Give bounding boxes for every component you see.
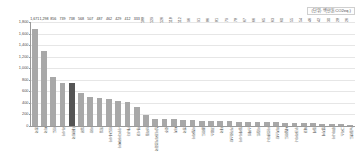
x-axis-label: 터키 xyxy=(172,127,176,133)
bar-value-label: 26 xyxy=(347,19,351,23)
x-label-slot: 네덜란드 xyxy=(281,126,290,160)
bars-container: 1,6711,298856739738568507487462429412333… xyxy=(30,22,355,126)
x-axis-label: 파키스탄 xyxy=(274,127,278,139)
bar-slot: 79 xyxy=(225,22,234,126)
x-axis-label: 이란 xyxy=(89,127,93,133)
bar-value-label: 67 xyxy=(245,19,249,23)
bar-value-label: 568 xyxy=(78,18,84,22)
y-tick-label: 800 xyxy=(22,78,31,82)
x-label-slot: 루마니아 xyxy=(327,126,336,160)
bar-slot: 81 xyxy=(216,22,225,126)
bar-value-label: 1,671 xyxy=(30,18,39,22)
x-label-slot: 파키스탄 xyxy=(271,126,280,160)
x-axis-label: 인도네시아 xyxy=(107,127,111,142)
x-axis-label: 일본 xyxy=(79,127,83,133)
x-label-slot: 인도네시아 xyxy=(104,126,113,160)
x-label-slot: 태국 xyxy=(216,126,225,160)
bar[interactable] xyxy=(143,115,149,126)
x-label-slot: 아르헨티나 xyxy=(262,126,271,160)
bar-slot: 86 xyxy=(206,22,215,126)
bar[interactable] xyxy=(50,77,56,126)
x-axis-label: 루마니아 xyxy=(330,127,334,139)
bar-value-label: 81 xyxy=(217,19,221,23)
x-label-slot: 독일 xyxy=(95,126,104,160)
bar[interactable] xyxy=(171,119,177,126)
x-label-slot: 벨기에 xyxy=(318,126,327,160)
bar-value-label: 54 xyxy=(300,19,304,23)
bar-value-label: 412 xyxy=(124,18,130,22)
bar-value-label: 30 xyxy=(328,19,332,23)
bar-value-label: 188 xyxy=(142,18,146,24)
bar-value-label: 126 xyxy=(161,18,165,24)
y-tick-label: 1,200 xyxy=(19,55,31,59)
bar[interactable] xyxy=(125,102,131,126)
bar-value-label: 462 xyxy=(106,18,112,22)
x-axis-label: 이탈리아 xyxy=(191,127,195,139)
y-tick-label: 1,000 xyxy=(19,66,31,70)
bar[interactable] xyxy=(115,101,121,126)
x-axis-label: 브라질 xyxy=(144,127,148,136)
bar-value-label: 739 xyxy=(59,18,65,22)
bar-slot: 568 xyxy=(76,22,85,126)
bar-value-label: 333 xyxy=(134,18,140,22)
x-label-slot: 러시아 xyxy=(58,126,67,160)
y-tick-label: 1,800 xyxy=(19,20,31,24)
bar-slot: 333 xyxy=(132,22,141,126)
bar[interactable] xyxy=(87,97,93,126)
bar-slot: 487 xyxy=(95,22,104,126)
bar[interactable] xyxy=(60,83,66,126)
x-axis-label: 체코 xyxy=(302,127,306,133)
x-label-slot: 칠레 xyxy=(308,126,317,160)
x-axis-label: 스페인 xyxy=(246,127,250,136)
x-axis-label: 이집트 xyxy=(256,127,260,136)
bar-value-label: 55 xyxy=(291,19,295,23)
x-label-slot: 터키 xyxy=(169,126,178,160)
bar-slot: 60 xyxy=(281,22,290,126)
bar[interactable] xyxy=(32,29,38,126)
bar[interactable] xyxy=(69,83,75,126)
bar-value-label: 112 xyxy=(180,18,184,24)
bar[interactable] xyxy=(97,98,103,126)
x-axis-label: 말레이시아 xyxy=(237,127,241,142)
x-axis-label: 중국 xyxy=(33,127,37,133)
bar-slot: 126 xyxy=(160,22,169,126)
bar-slot: 42 xyxy=(318,22,327,126)
x-axis-label: 폴란드 xyxy=(200,127,204,136)
x-axis-label: 프랑스 xyxy=(209,127,213,136)
x-axis-label: 태국 xyxy=(218,127,222,133)
bar-slot: 738 xyxy=(67,22,76,126)
bar-slot: 129 xyxy=(151,22,160,126)
x-axis-label: 호주 xyxy=(163,127,167,133)
bar-slot: 46 xyxy=(308,22,317,126)
x-label-slot: 사우디아라비아 xyxy=(114,126,123,160)
y-tick-label: 200 xyxy=(22,112,31,116)
bar[interactable] xyxy=(106,99,112,126)
bar-chart: (단위: 백만톤CO2eq.) 1,6711,29885673973856850… xyxy=(0,0,361,160)
bar[interactable] xyxy=(134,107,140,126)
x-label-slot: 브라질 xyxy=(141,126,150,160)
bar-value-label: 42 xyxy=(319,19,323,23)
bar-slot: 91 xyxy=(197,22,206,126)
bar-slot: 739 xyxy=(58,22,67,126)
bar-value-label: 129 xyxy=(152,18,156,24)
x-axis-label: 대한민국 xyxy=(70,127,74,139)
bar[interactable] xyxy=(41,51,47,126)
bar[interactable] xyxy=(152,119,158,126)
x-axis-label: 우크라이나 xyxy=(293,127,297,142)
bar-value-label: 429 xyxy=(115,18,121,22)
bar-slot: 30 xyxy=(327,22,336,126)
x-axis-label: 사우디아라비아 xyxy=(116,127,120,148)
bar[interactable] xyxy=(162,119,168,126)
bar-slot: 65 xyxy=(262,22,271,126)
bar-slot: 55 xyxy=(290,22,299,126)
bar[interactable] xyxy=(78,93,84,126)
x-label-slot: 인도 xyxy=(49,126,58,160)
x-axis-label: 러시아 xyxy=(61,127,65,136)
x-label-slot: 프랑스 xyxy=(206,126,215,160)
x-label-slot: 뉴질랜드 xyxy=(346,126,355,160)
bar-slot: 118 xyxy=(169,22,178,126)
bar-slot: 96 xyxy=(188,22,197,126)
x-label-slot: 이집트 xyxy=(253,126,262,160)
bar-value-label: 856 xyxy=(50,18,56,22)
bar-value-label: 487 xyxy=(97,18,103,22)
